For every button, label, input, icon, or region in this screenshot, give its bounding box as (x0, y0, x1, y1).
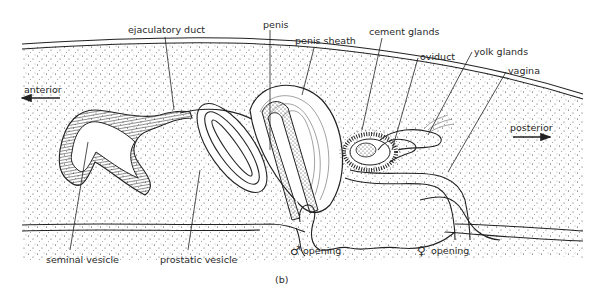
male-symbol-icon: ♂ (290, 244, 301, 258)
label-female-opening: opening (431, 245, 469, 256)
figure-caption: (b) (275, 274, 288, 285)
label-yolk-glands: yolk glands (474, 46, 528, 57)
female-symbol-icon: ♀ (417, 244, 426, 258)
label-penis: penis (263, 19, 289, 30)
diagram-figure: anterior posterior ejaculatory duct peni… (0, 0, 607, 294)
label-prostatic-vesicle: prostatic vesicle (160, 254, 238, 265)
label-vagina: vagina (508, 65, 540, 76)
label-male-opening: opening (303, 245, 341, 256)
label-oviduct: oviduct (420, 51, 455, 62)
label-cement-glands: cement glands (369, 26, 439, 37)
label-penis-sheath: penis sheath (295, 35, 356, 46)
reproductive-system-diagram: anterior posterior ejaculatory duct peni… (0, 0, 607, 294)
label-anterior: anterior (24, 84, 62, 95)
label-ejaculatory-duct: ejaculatory duct (128, 24, 205, 35)
label-seminal-vesicle: seminal vesicle (46, 254, 119, 265)
label-posterior: posterior (510, 122, 553, 133)
